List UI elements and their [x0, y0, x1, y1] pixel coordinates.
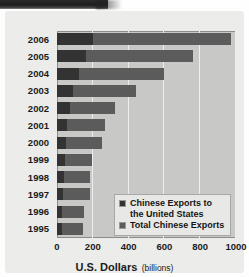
bar-row: [57, 117, 236, 134]
y-axis-label-1998: 1998: [5, 173, 49, 183]
bar-row: [57, 83, 236, 100]
bar-exports-to-united-states: [57, 188, 63, 200]
y-axis-label-2001: 2001: [5, 121, 49, 131]
legend-item-total-exports: Total Chinese Exports: [119, 220, 226, 231]
x-axis-tick-800: 800: [192, 241, 208, 252]
bar-row: [57, 66, 236, 83]
legend-label-line2: the United States: [130, 209, 204, 219]
bar-exports-to-united-states: [57, 33, 93, 45]
x-axis-title-main: U.S. Dollars: [76, 261, 138, 273]
x-axis-tick-200: 200: [85, 241, 101, 252]
y-axis-label-2006: 2006: [5, 35, 49, 45]
x-axis-title-unit: (billions): [142, 263, 174, 273]
y-axis-label-1997: 1997: [5, 190, 49, 200]
y-axis-label-1996: 1996: [5, 207, 49, 217]
y-axis-label-2005: 2005: [5, 52, 49, 62]
bar-exports-to-united-states: [57, 154, 65, 166]
bar-row: [57, 31, 236, 48]
chart-legend: Chinese Exports to the United States Tot…: [114, 194, 231, 236]
legend-swatch-icon-exports-to-us: [119, 200, 126, 207]
page-header-band-fade: [96, 0, 122, 9]
bar-exports-to-united-states: [57, 119, 67, 131]
chart-figure: 2006200520042003200220012000199919981997…: [5, 11, 244, 273]
legend-label-total-exports: Total Chinese Exports: [130, 220, 224, 231]
y-axis-label-2000: 2000: [5, 138, 49, 148]
bar-exports-to-united-states: [57, 171, 64, 183]
y-axis-label-2003: 2003: [5, 86, 49, 96]
y-axis-category-labels: 2006200520042003200220012000199919981997…: [5, 31, 53, 238]
legend-label-exports-to-us: Chinese Exports to the United States: [130, 198, 212, 219]
bar-exports-to-united-states: [57, 50, 86, 62]
x-axis-title: U.S. Dollars (billions): [5, 257, 244, 275]
bar-row: [57, 135, 236, 152]
bar-exports-to-united-states: [57, 68, 79, 80]
bar-exports-to-united-states: [57, 85, 73, 97]
bar-row: [57, 100, 236, 117]
x-axis-tick-0: 0: [54, 241, 59, 252]
x-axis-tick-labels: 02004006008001000: [57, 241, 236, 254]
x-axis-tick-1000: 1000: [225, 241, 246, 252]
bar-row: [57, 152, 236, 169]
bar-exports-to-united-states: [57, 206, 62, 218]
bar-exports-to-united-states: [57, 137, 66, 149]
page-header-band: [0, 0, 108, 9]
legend-label-line1: Chinese Exports to: [130, 198, 212, 208]
x-axis-tick-600: 600: [156, 241, 172, 252]
x-axis-tick-400: 400: [121, 241, 137, 252]
bar-exports-to-united-states: [57, 102, 70, 114]
y-axis-label-1995: 1995: [5, 224, 49, 234]
bar-row: [57, 48, 236, 65]
y-axis-label-1999: 1999: [5, 155, 49, 165]
y-axis-label-2004: 2004: [5, 69, 49, 79]
bar-exports-to-united-states: [57, 223, 62, 235]
legend-item-exports-to-us: Chinese Exports to the United States: [119, 198, 226, 219]
legend-swatch-icon-total-exports: [119, 222, 126, 229]
y-axis-label-2002: 2002: [5, 104, 49, 114]
bar-row: [57, 169, 236, 186]
